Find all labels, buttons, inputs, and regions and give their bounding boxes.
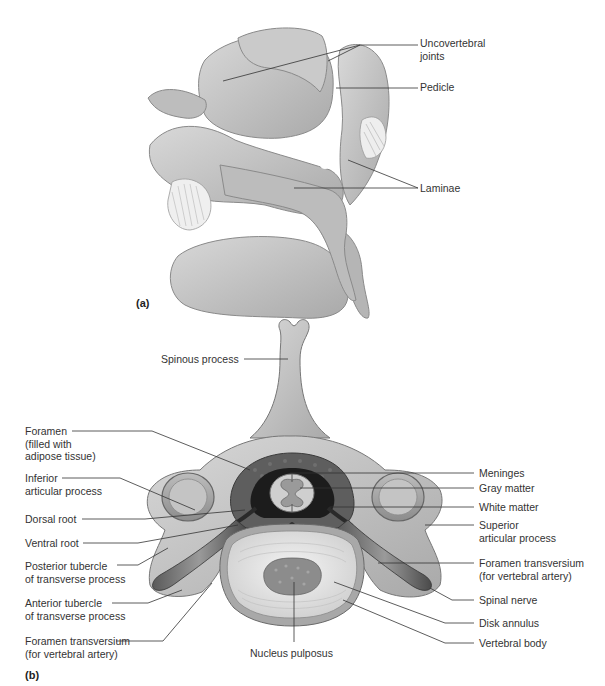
label-vertebral-body: Vertebral body [479,637,547,650]
label-white-matter: White matter [479,501,539,514]
label-inferior-articular-process: Inferior articular process [25,472,102,497]
label-ventral-root: Ventral root [25,537,79,550]
anatomy-figure: Uncovertebral joints Pedicle Laminae (a)… [0,0,605,686]
label-disk-annulus: Disk annulus [479,617,539,630]
label-laminae: Laminae [420,182,460,195]
label-posterior-tubercle: Posterior tubercle of transverse process [25,560,125,585]
label-anterior-tubercle: Anterior tubercle of transverse process [25,597,125,622]
label-nucleus-pulposus: Nucleus pulposus [250,647,333,660]
panel-a-tag: (a) [136,297,149,309]
label-foramen-transversium-left: Foramen transversium (for vertebral arte… [25,635,130,660]
panel-a-vertebrae-illustration [148,28,389,318]
label-foramen-adipose: Foramen (filled with adipose tissue) [25,425,96,463]
panel-b-tag: (b) [25,669,39,681]
label-foramen-transversium-right: Foramen transversium (for vertebral arte… [479,557,584,582]
label-spinous-process: Spinous process [161,353,239,366]
label-pedicle: Pedicle [420,81,454,94]
label-gray-matter: Gray matter [479,482,534,495]
label-meninges: Meninges [479,467,525,480]
label-spinal-nerve: Spinal nerve [479,594,537,607]
label-dorsal-root: Dorsal root [25,513,76,526]
label-superior-articular-process: Superior articular process [479,519,556,544]
label-uncovertebral-joints: Uncovertebral joints [420,37,485,62]
